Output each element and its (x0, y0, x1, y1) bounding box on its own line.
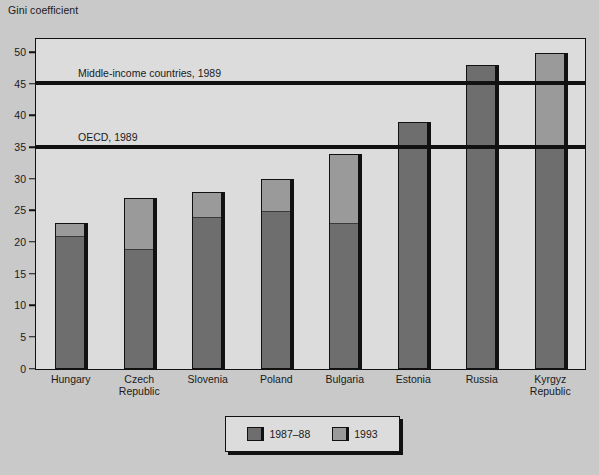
bar-group (398, 40, 428, 369)
bar[interactable] (124, 198, 154, 369)
legend-item: 1987–88 (247, 427, 310, 441)
bar-segment-1993[interactable] (193, 193, 221, 218)
y-axis-tick-mark (29, 336, 35, 338)
y-axis-tick-label: 50 (0, 46, 26, 58)
y-axis-tick-mark (29, 51, 35, 53)
bar[interactable] (466, 65, 496, 369)
bar-group (329, 40, 359, 369)
bar[interactable] (535, 53, 565, 369)
reference-line-label: Middle-income countries, 1989 (78, 67, 221, 79)
page-title: Gini coefficient (8, 4, 78, 16)
reference-line (36, 81, 585, 85)
legend-swatch-1987-88 (247, 427, 262, 441)
bar-segment-1993[interactable] (56, 224, 84, 237)
bars-layer (36, 39, 585, 369)
y-axis-tick-label: 40 (0, 109, 26, 121)
legend-swatch-1993 (332, 427, 347, 441)
y-axis-tick-mark (29, 146, 35, 148)
bar-segment-1993[interactable] (125, 199, 153, 250)
bar-group (55, 40, 85, 369)
y-axis-tick-mark (29, 273, 35, 275)
bar-group (466, 40, 496, 369)
bar-segment-1993[interactable] (536, 54, 564, 149)
plot-area: Middle-income countries, 1989OECD, 1989 (35, 38, 586, 370)
y-axis-tick-label: 35 (0, 141, 26, 153)
y-axis-tick-label: 0 (0, 363, 26, 375)
y-axis-tick-mark (29, 178, 35, 180)
y-axis-tick-mark (29, 241, 35, 243)
y-axis-tick-label: 20 (0, 236, 26, 248)
bar[interactable] (192, 192, 222, 369)
y-axis-tick-label: 5 (0, 331, 26, 343)
y-axis-tick-label: 15 (0, 268, 26, 280)
y-axis-tick-mark (29, 210, 35, 212)
bar[interactable] (398, 122, 428, 369)
y-axis-tick-label: 45 (0, 78, 26, 90)
bar-group (124, 40, 154, 369)
bar-group (261, 40, 291, 369)
plot-inner: Middle-income countries, 1989OECD, 1989 (36, 39, 585, 369)
bar[interactable] (261, 179, 291, 369)
y-axis-tick-label: 25 (0, 204, 26, 216)
y-axis-tick-mark (29, 83, 35, 85)
y-axis-tick-mark (29, 304, 35, 306)
x-axis-tick-label: Kyrgyz Republic (504, 374, 596, 397)
y-axis-tick-mark (29, 368, 35, 370)
y-axis-tick-label: 30 (0, 173, 26, 185)
y-axis-tick-label: 10 (0, 299, 26, 311)
legend-item: 1993 (332, 427, 377, 441)
reference-line-label: OECD, 1989 (78, 131, 138, 143)
bar-group (192, 40, 222, 369)
bar[interactable] (329, 154, 359, 369)
bar-group (535, 40, 565, 369)
bar-segment-1993[interactable] (330, 155, 358, 225)
legend-label-1993: 1993 (354, 428, 377, 440)
legend-label-1987-88: 1987–88 (269, 428, 310, 440)
reference-line (36, 145, 585, 149)
y-axis-tick-mark (29, 115, 35, 117)
bar[interactable] (55, 223, 85, 369)
bar-segment-1993[interactable] (262, 180, 290, 212)
chart-root: Gini coefficient Middle-income countries… (0, 0, 599, 475)
legend: 1987–88 1993 (225, 416, 400, 452)
